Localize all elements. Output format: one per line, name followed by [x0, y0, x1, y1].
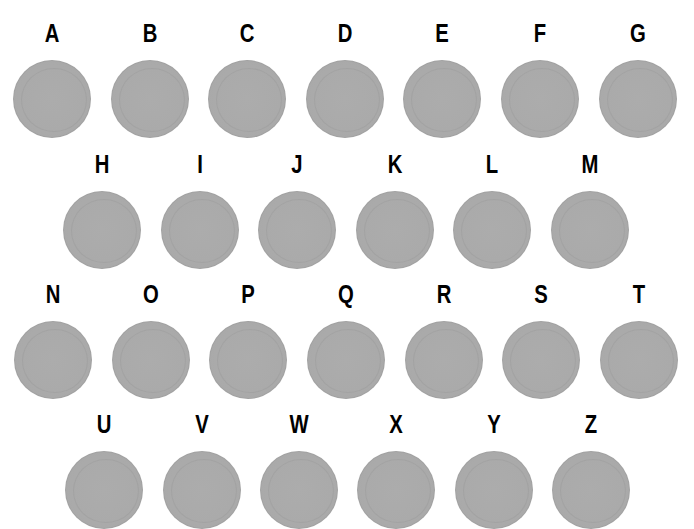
gray-circle	[65, 451, 143, 529]
swatch-letter: J	[266, 148, 328, 180]
swatch-letter: Q	[315, 278, 377, 310]
gray-circle	[403, 60, 481, 138]
swatch-letter: W	[268, 408, 330, 440]
swatch-letter: O	[120, 278, 182, 310]
swatch-letter: G	[607, 17, 669, 49]
swatch-letter: D	[314, 17, 376, 49]
swatch-k: K	[355, 148, 435, 268]
gray-circle	[163, 451, 241, 529]
swatch-letter: E	[411, 17, 473, 49]
swatch-letter: N	[22, 278, 84, 310]
gray-circle	[111, 60, 189, 138]
gray-circle	[63, 191, 141, 269]
swatch-j: J	[257, 148, 337, 268]
swatch-s: S	[501, 278, 581, 398]
gray-circle	[455, 451, 533, 529]
swatch-letter: M	[559, 148, 621, 180]
swatch-y: Y	[454, 408, 534, 528]
gray-circle	[356, 191, 434, 269]
swatch-p: P	[208, 278, 288, 398]
gray-circle	[14, 321, 92, 399]
swatch-letter: I	[169, 148, 231, 180]
gray-circle	[258, 191, 336, 269]
swatch-letter: Z	[560, 408, 622, 440]
swatch-x: X	[356, 408, 436, 528]
swatch-letter: U	[73, 408, 135, 440]
swatch-d: D	[305, 17, 385, 137]
gray-circle	[112, 321, 190, 399]
gray-circle	[552, 451, 630, 529]
gray-circle	[260, 451, 338, 529]
swatch-letter: K	[364, 148, 426, 180]
swatch-i: I	[160, 148, 240, 268]
gray-circle	[405, 321, 483, 399]
gray-circle	[599, 60, 677, 138]
swatch-g: G	[598, 17, 678, 137]
swatch-letter: L	[461, 148, 523, 180]
swatch-letter: P	[217, 278, 279, 310]
swatch-z: Z	[551, 408, 631, 528]
swatch-h: H	[62, 148, 142, 268]
gray-circle	[307, 321, 385, 399]
swatch-letter: F	[509, 17, 571, 49]
swatch-f: F	[500, 17, 580, 137]
swatch-letter: X	[365, 408, 427, 440]
swatch-b: B	[110, 17, 190, 137]
swatch-u: U	[64, 408, 144, 528]
swatch-c: C	[207, 17, 287, 137]
gray-circle	[13, 60, 91, 138]
swatch-a: A	[12, 17, 92, 137]
swatch-letter: H	[71, 148, 133, 180]
gray-circle	[501, 60, 579, 138]
swatch-r: R	[404, 278, 484, 398]
swatch-letter: V	[171, 408, 233, 440]
swatch-letter: R	[413, 278, 475, 310]
swatch-e: E	[402, 17, 482, 137]
swatch-w: W	[259, 408, 339, 528]
gray-circle	[502, 321, 580, 399]
swatch-n: N	[13, 278, 93, 398]
swatch-l: L	[452, 148, 532, 268]
swatch-letter: Y	[463, 408, 525, 440]
swatch-letter: A	[21, 17, 83, 49]
swatch-q: Q	[306, 278, 386, 398]
gray-circle	[208, 60, 286, 138]
swatch-letter: S	[510, 278, 572, 310]
gray-circle	[357, 451, 435, 529]
swatch-letter: B	[119, 17, 181, 49]
swatch-letter: C	[216, 17, 278, 49]
gray-circle	[453, 191, 531, 269]
gray-circle	[161, 191, 239, 269]
swatch-o: O	[111, 278, 191, 398]
swatch-t: T	[599, 278, 679, 398]
swatch-m: M	[550, 148, 630, 268]
gray-circle	[209, 321, 287, 399]
swatch-v: V	[162, 408, 242, 528]
swatch-letter: T	[608, 278, 670, 310]
gray-circle	[551, 191, 629, 269]
gray-circle	[600, 321, 678, 399]
gray-circle	[306, 60, 384, 138]
